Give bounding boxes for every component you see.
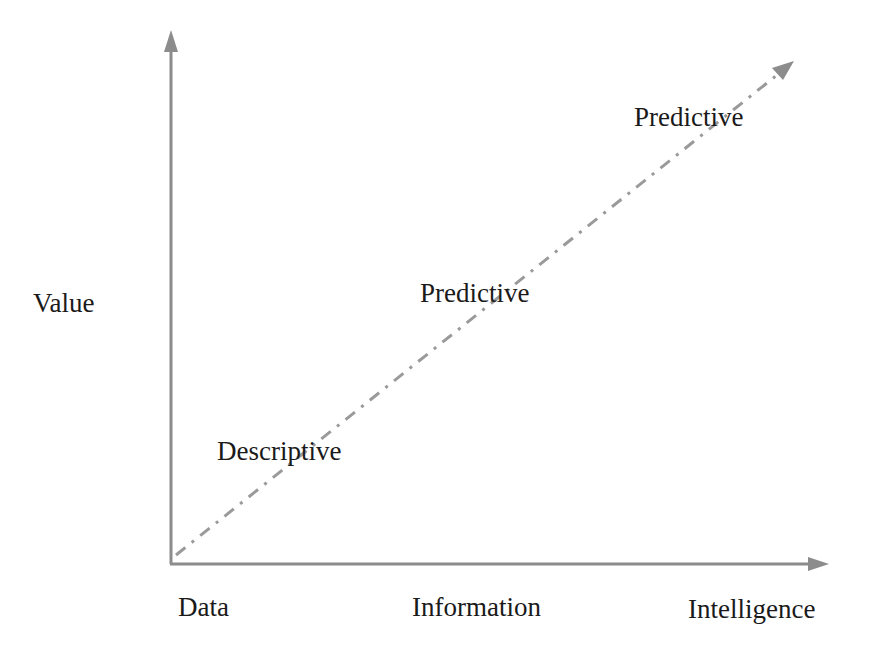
x-label-data: Data <box>178 594 229 621</box>
x-axis <box>170 557 829 571</box>
trend-label-descriptive: Descriptive <box>217 438 341 465</box>
x-label-intelligence: Intelligence <box>688 596 815 623</box>
trend-label-predictive-mid: Predictive <box>420 280 529 307</box>
trend-line <box>176 61 794 555</box>
x-label-information: Information <box>412 594 541 621</box>
y-axis-arrow-icon <box>164 30 178 52</box>
diagram-canvas <box>0 0 875 655</box>
y-axis-label: Value <box>33 290 94 317</box>
trend-label-predictive-top: Predictive <box>634 104 743 131</box>
x-axis-arrow-icon <box>808 557 829 571</box>
y-axis <box>164 30 178 564</box>
